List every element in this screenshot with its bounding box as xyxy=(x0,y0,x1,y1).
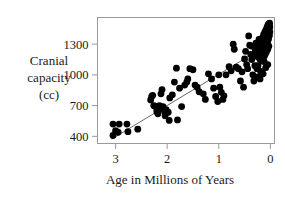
data-point xyxy=(149,92,156,99)
data-point xyxy=(165,109,172,116)
data-point xyxy=(166,117,173,124)
data-point xyxy=(116,121,123,128)
data-point xyxy=(240,84,247,91)
data-point xyxy=(257,76,264,83)
data-point xyxy=(210,85,217,92)
data-point xyxy=(215,71,222,78)
data-point xyxy=(178,103,185,110)
x-tick-label: 0 xyxy=(267,152,273,166)
data-point xyxy=(159,86,166,93)
y-axis-label: Cranial capacity (cc) xyxy=(6,52,92,103)
scatter-plot-figure: 3210 13001000700400 Cranial capacity (cc… xyxy=(0,0,285,197)
data-point xyxy=(115,129,122,136)
x-tick-label: 1 xyxy=(216,152,222,166)
data-point xyxy=(169,91,176,98)
data-point xyxy=(171,79,178,86)
x-tick-label: 2 xyxy=(164,152,170,166)
y-axis-label-line-1: Cranial xyxy=(6,52,92,69)
data-point xyxy=(266,28,273,35)
data-point xyxy=(125,128,132,135)
data-point xyxy=(262,64,269,71)
data-point xyxy=(265,43,272,50)
data-point xyxy=(202,96,209,103)
data-point xyxy=(190,66,197,73)
data-point xyxy=(231,46,238,53)
data-point xyxy=(245,33,252,40)
y-axis-label-line-3: (cc) xyxy=(6,86,92,103)
y-tick-label: 1300 xyxy=(64,38,89,52)
data-point xyxy=(124,121,131,128)
data-point xyxy=(248,43,255,50)
data-point xyxy=(251,50,258,57)
y-axis-label-line-2: capacity xyxy=(6,69,92,86)
y-tick-label: 400 xyxy=(70,130,89,144)
data-point xyxy=(255,62,262,69)
data-point xyxy=(221,92,228,99)
data-point xyxy=(184,76,191,83)
data-point xyxy=(244,65,251,72)
data-point xyxy=(173,65,180,72)
data-point xyxy=(261,58,268,65)
data-point xyxy=(110,121,117,128)
data-point xyxy=(134,126,141,133)
x-tick-label: 3 xyxy=(112,152,118,166)
x-axis-label: Age in Millions of Years xyxy=(60,172,280,188)
data-point xyxy=(174,117,181,124)
data-point xyxy=(208,76,215,83)
data-point xyxy=(237,78,244,85)
